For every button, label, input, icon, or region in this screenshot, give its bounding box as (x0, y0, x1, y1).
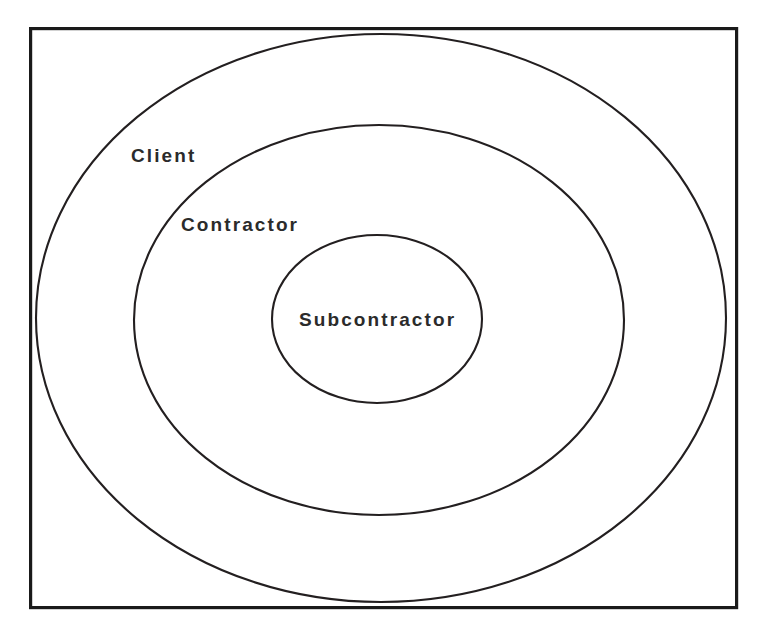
diagram-canvas: Client Contractor Subcontractor (0, 0, 764, 634)
label-contractor: Contractor (181, 215, 299, 234)
label-subcontractor: Subcontractor (299, 310, 456, 329)
label-client: Client (131, 146, 196, 165)
